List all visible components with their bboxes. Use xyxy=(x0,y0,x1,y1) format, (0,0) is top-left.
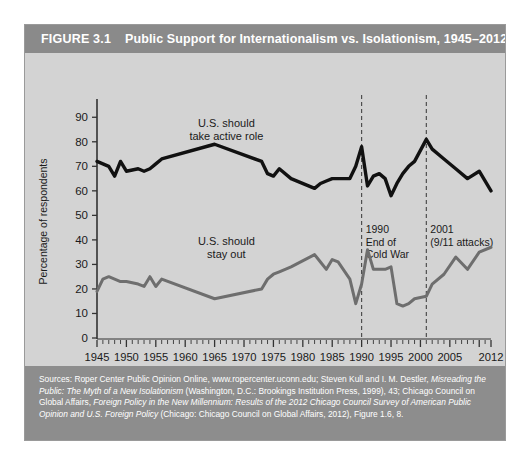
series-line-stay-out xyxy=(97,247,491,306)
series-line-active-role xyxy=(97,139,491,195)
x-axis-tick-label: 1960 xyxy=(173,351,198,363)
x-axis-tick-label: 1985 xyxy=(320,351,345,363)
y-axis-tick-label: 80 xyxy=(75,136,88,148)
x-axis-tick-label: 1995 xyxy=(379,351,404,363)
figure-frame: FIGURE 3.1 Public Support for Internatio… xyxy=(24,24,506,441)
x-axis-tick-label: 1945 xyxy=(85,351,110,363)
x-axis-tick-label: 1990 xyxy=(349,351,374,363)
series-label-stay-out: stay out xyxy=(207,248,246,260)
event-label-end-of-cold-war: Cold War xyxy=(366,248,410,260)
x-axis-tick-label: 1955 xyxy=(143,351,168,363)
series-label-active-role: U.S. should xyxy=(198,117,255,129)
y-axis-tick-label: 10 xyxy=(75,307,88,319)
figure-header-band: FIGURE 3.1 Public Support for Internatio… xyxy=(25,25,505,53)
y-axis-tick-label: 20 xyxy=(75,283,88,295)
source-note-text: Sources: Roper Center Public Opinion Onl… xyxy=(39,374,493,420)
y-axis-tick-label: 70 xyxy=(75,160,88,172)
series-label-stay-out: U.S. should xyxy=(198,235,255,247)
y-axis-tick-label: 0 xyxy=(82,332,88,344)
x-axis-tick-label: 1980 xyxy=(290,351,315,363)
series-label-active-role: take active role xyxy=(189,130,263,142)
event-label-september-eleven: 2001 xyxy=(430,223,454,235)
chart-plot-region: 0102030405060708090Percentage of respond… xyxy=(25,53,505,368)
figure-number: FIGURE 3.1 xyxy=(41,32,111,46)
x-axis-tick-label: 1970 xyxy=(232,351,257,363)
line-chart: 0102030405060708090Percentage of respond… xyxy=(25,53,507,368)
source-note-band: Sources: Roper Center Public Opinion Onl… xyxy=(25,366,505,440)
y-axis-tick-label: 50 xyxy=(75,209,88,221)
x-axis-tick-label: 2012 xyxy=(479,351,504,363)
figure-title: Public Support for Internationalism vs. … xyxy=(125,32,505,46)
x-axis-tick-label: 1950 xyxy=(114,351,139,363)
event-label-september-eleven: (9/11 attacks) xyxy=(430,236,493,248)
x-axis-tick-label: 1965 xyxy=(202,351,227,363)
source-segment-plain-1: Sources: Roper Center Public Opinion Onl… xyxy=(39,374,431,384)
event-label-end-of-cold-war: 1990 xyxy=(366,223,390,235)
x-axis-tick-label: 2000 xyxy=(408,351,433,363)
y-axis-tick-label: 30 xyxy=(75,258,88,270)
y-axis-tick-label: 90 xyxy=(75,111,88,123)
y-axis-tick-label: 60 xyxy=(75,185,88,197)
x-axis-tick-label: 1975 xyxy=(261,351,286,363)
y-axis-tick-label: 40 xyxy=(75,234,88,246)
x-axis-tick-label: 2005 xyxy=(437,351,462,363)
source-segment-plain-3: (Chicago: Chicago Council on Global Affa… xyxy=(158,409,403,419)
event-label-end-of-cold-war: End of xyxy=(366,236,396,248)
y-axis-title: Percentage of respondents xyxy=(37,158,49,284)
